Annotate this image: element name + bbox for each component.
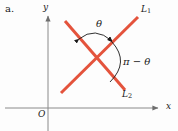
line-L2-label-subscript: 2: [128, 92, 132, 100]
x-axis-label: x: [166, 102, 171, 111]
line-L1-label: L1: [141, 5, 151, 15]
origin-label: O: [38, 110, 45, 119]
pi-minus-theta-angle-label: π − θ: [123, 57, 150, 67]
angle-between-lines-figure: a. y x O L1 L2 θ π − θ: [0, 0, 178, 131]
theta-arc: [79, 33, 112, 41]
part-label: a.: [5, 4, 14, 14]
line-L1-label-subscript: 1: [147, 7, 151, 15]
line-L2-label: L2: [122, 90, 132, 100]
y-axis-label: y: [43, 3, 48, 12]
theta-angle-label: θ: [96, 19, 102, 29]
figure-canvas: [0, 0, 178, 131]
